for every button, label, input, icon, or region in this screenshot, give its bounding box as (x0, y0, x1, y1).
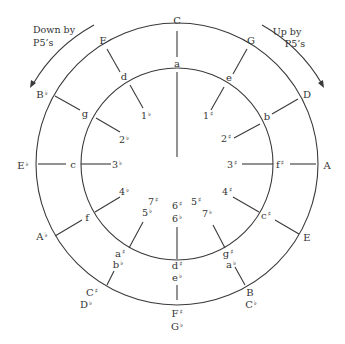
signature-label-2s: 2♯ (221, 133, 231, 144)
caption-up-line2: P5’s (285, 38, 305, 49)
spoke-outer-D (272, 99, 298, 114)
signature-label-1s: 1♯ (203, 110, 213, 121)
sharp-icon: ♯ (281, 159, 284, 167)
minor-label-b: b (264, 111, 270, 122)
spoke-inner-7s (129, 222, 143, 248)
spoke-outer-Bb (55, 96, 80, 110)
sharp-icon: ♯ (234, 159, 237, 167)
flat-icon: ♭ (254, 299, 257, 307)
minor-label-g: g (82, 108, 89, 119)
key-labels: CGDAEBC♭F♯G♭C♯D♭A♭E♭B♭Faebf♯c♯g♯a♭d♯e♭a♯… (17, 15, 331, 332)
flat-icon: ♭ (148, 110, 151, 118)
major-label-Cb: C♭ (245, 299, 257, 310)
spoke-inner-2s (234, 124, 260, 138)
spoke-outer-B (235, 267, 245, 285)
minor-label-d: d (121, 71, 128, 82)
signature-label-1b: 1♭ (141, 110, 151, 121)
spoke-inner-5s (213, 225, 225, 248)
sharp-icon: ♯ (95, 287, 98, 295)
flat-icon: ♭ (179, 213, 182, 221)
signature-label-7b: 7♭ (202, 208, 212, 219)
arrowhead-icon (318, 80, 324, 88)
minor-label-gs: g♯ (223, 248, 234, 259)
sharp-icon: ♯ (155, 196, 158, 204)
major-label-D: D (303, 89, 311, 100)
signature-label-6s: 6♯ (172, 200, 182, 211)
signature-label-6b: 6♭ (172, 213, 182, 224)
flat-icon: ♭ (149, 207, 152, 215)
flat-icon: ♭ (120, 259, 123, 267)
caption-down-line1: Down by (33, 24, 76, 35)
spoke-inner-4s (233, 197, 259, 212)
sharp-icon: ♯ (210, 110, 213, 118)
signature-label-5b: 5♭ (142, 207, 152, 218)
minor-label-as: a♯ (115, 248, 125, 259)
major-label-Cs: C♯ (86, 287, 98, 298)
major-label-Bb: B♭ (36, 89, 47, 100)
minor-label-eb: e♭ (172, 272, 182, 283)
major-label-C: C (173, 15, 181, 26)
sharp-icon: ♯ (230, 248, 233, 256)
signature-label-3s: 3♯ (227, 159, 237, 170)
minor-label-e: e (226, 72, 232, 83)
major-label-F: F (100, 35, 107, 46)
spoke-outer-Cs (107, 271, 114, 285)
signature-label-7s: 7♯ (148, 196, 158, 207)
sharp-icon: ♯ (268, 210, 271, 218)
sharp-icon: ♯ (179, 308, 182, 316)
flat-icon: ♭ (179, 272, 182, 280)
spoke-outer-F (107, 49, 120, 72)
inner-spokes (81, 72, 273, 259)
minor-label-cs: c♯ (261, 210, 271, 221)
minor-label-a: a (174, 58, 180, 69)
flat-icon: ♭ (233, 259, 236, 267)
spoke-outer-E (275, 220, 299, 234)
spoke-inner-4b (95, 197, 120, 212)
flat-icon: ♭ (119, 159, 122, 167)
signature-label-4s: 4♯ (222, 186, 232, 197)
signature-label-5s: 5♯ (191, 196, 201, 207)
sharp-icon: ♯ (228, 133, 231, 141)
flat-icon: ♭ (180, 321, 183, 329)
major-label-Ab: A♭ (35, 231, 47, 242)
flat-icon: ♭ (126, 186, 129, 194)
sharp-icon: ♯ (229, 186, 232, 194)
minor-label-bb: b♭ (113, 259, 123, 270)
minor-label-c: c (70, 159, 76, 170)
signature-label-2b: 2♭ (119, 134, 129, 145)
spoke-outer-Ab (55, 220, 82, 236)
sharp-icon: ♯ (198, 196, 201, 204)
spoke-inner-1s (211, 87, 224, 110)
minor-label-fs: f♯ (276, 159, 284, 170)
major-label-Db: D♭ (80, 299, 92, 310)
spoke-inner-1b (130, 85, 143, 108)
major-label-G: G (247, 35, 255, 46)
signature-label-3b: 3♭ (112, 159, 122, 170)
sharp-icon: ♯ (122, 248, 125, 256)
major-label-E: E (303, 232, 310, 243)
flat-icon: ♭ (26, 160, 29, 168)
flat-icon: ♭ (126, 134, 129, 142)
major-label-Eb: E♭ (17, 160, 28, 171)
sharp-icon: ♯ (179, 200, 182, 208)
major-label-Gb: G♭ (171, 321, 183, 332)
major-label-A: A (322, 160, 331, 171)
caption-up-line1: Up by (273, 26, 302, 37)
spoke-inner-2b (96, 118, 120, 132)
flat-icon: ♭ (45, 231, 48, 239)
minor-label-ab: a♭ (226, 259, 236, 270)
minor-label-ds: d♯ (172, 260, 183, 271)
flat-icon: ♭ (89, 299, 92, 307)
major-label-Fs: F♯ (171, 308, 182, 319)
caption-down-line2: P5’s (33, 37, 53, 48)
signature-label-4b: 4♭ (119, 186, 129, 197)
flat-icon: ♭ (45, 89, 48, 97)
minor-label-f: f (85, 212, 90, 223)
major-label-B: B (246, 287, 253, 298)
circle-of-fifths-diagram: Down by P5’s Up by P5’s CGDAEBC♭F♯G♭C♯D♭… (0, 0, 345, 344)
spoke-outer-G (233, 49, 247, 74)
flat-icon: ♭ (209, 208, 212, 216)
sharp-icon: ♯ (179, 260, 182, 268)
